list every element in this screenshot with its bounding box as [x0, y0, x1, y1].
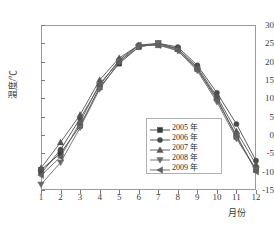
data-point-marker: [58, 147, 63, 152]
legend-marker-icon: [149, 141, 171, 151]
data-point-marker: [57, 139, 64, 145]
legend-marker-icon: [149, 151, 171, 161]
data-point-marker: [38, 182, 45, 188]
temperature-line-chart: 温度/℃ 月份 -15-10-5051015202530 12345678910…: [0, 0, 274, 228]
data-point-marker: [157, 167, 163, 174]
legend: 2005 年2006 年2007 年2008 年2009 年: [146, 118, 222, 174]
legend-item-2007-年[interactable]: 2007 年: [149, 141, 218, 151]
series-layer: [0, 0, 274, 228]
legend-label: 2009 年: [172, 161, 198, 172]
data-point-marker: [234, 121, 239, 126]
legend-item-2008-年[interactable]: 2008 年: [149, 151, 218, 161]
legend-marker-icon: [149, 131, 171, 141]
legend-item-2005-年[interactable]: 2005 年: [149, 121, 218, 131]
legend-item-2009-年[interactable]: 2009 年: [149, 161, 218, 171]
legend-item-2006-年[interactable]: 2006 年: [149, 131, 218, 141]
legend-marker-icon: [149, 161, 171, 171]
legend-marker-icon: [149, 121, 171, 131]
